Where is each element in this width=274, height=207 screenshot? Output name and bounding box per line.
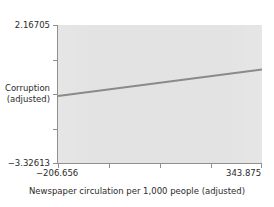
y-axis-title-line1: Corruption [5,83,50,94]
y-axis-max-label: 2.16705 [15,20,50,30]
x-axis-max-label: 343.875 [226,168,261,178]
x-axis-tick [109,164,110,168]
y-axis-title-line2: (adjusted) [7,94,50,105]
x-axis-tick [160,164,161,168]
x-axis-min-label: −206.656 [36,168,78,178]
regression-line [58,70,262,96]
y-axis-tick [53,163,57,164]
y-axis-tick [53,129,57,130]
y-axis-tick [53,94,57,95]
x-axis-title: Newspaper circulation per 1,000 people (… [0,186,274,197]
chart-figure: 2.16705 Corruption (adjusted) −3.32613 −… [0,0,274,207]
x-axis-tick [211,164,212,168]
regression-line-series [58,25,262,163]
y-axis-line [57,25,58,164]
plot-area [58,25,262,163]
y-axis-tick [53,60,57,61]
y-axis-tick [53,25,57,26]
y-axis-min-label: −3.32613 [8,158,50,168]
